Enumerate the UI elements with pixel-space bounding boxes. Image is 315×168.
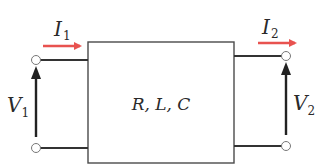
- input-bottom-terminal: [32, 144, 41, 153]
- label-i1-symbol: I: [53, 17, 63, 41]
- two-port-network-diagram: R, L, C I1 I2 V1 V2: [0, 0, 315, 168]
- label-v1-subscript: 1: [21, 106, 29, 120]
- label-v2: V2: [293, 91, 315, 118]
- output-bottom-terminal: [282, 142, 291, 151]
- output-top-terminal: [282, 52, 291, 61]
- label-i1-subscript: 1: [63, 29, 71, 43]
- network-block-label: R, L, C: [131, 94, 191, 114]
- label-i2: I2: [261, 15, 279, 41]
- input-top-terminal: [32, 56, 41, 65]
- label-i1: I1: [53, 17, 71, 43]
- voltage-arrow-v2-head: [281, 62, 291, 75]
- voltage-arrow-v1-head: [31, 66, 41, 79]
- label-v2-subscript: 2: [307, 104, 315, 118]
- label-i2-symbol: I: [261, 15, 271, 39]
- label-v1: V1: [7, 93, 29, 120]
- label-i2-subscript: 2: [271, 27, 279, 41]
